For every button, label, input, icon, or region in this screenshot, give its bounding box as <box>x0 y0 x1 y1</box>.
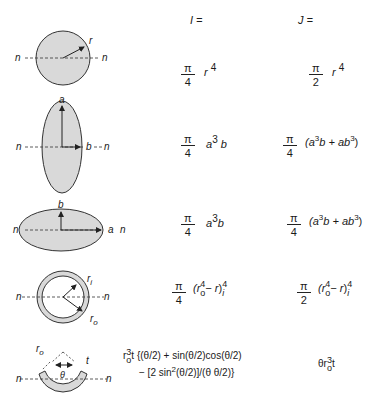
I-row2-expression: a3 b <box>206 134 227 150</box>
label-axis-n-right: n <box>104 291 110 302</box>
I-row4-expression: (r4o− r)4i <box>193 280 227 298</box>
label-r: r <box>89 35 92 46</box>
label-axis-n-left: n <box>16 291 22 302</box>
J-row2-fraction: π4 <box>283 133 297 160</box>
label-axis-n-right: n <box>120 224 126 235</box>
label-axis-n-left: n <box>15 52 21 63</box>
I-row3-expression: a3b <box>206 213 224 229</box>
label-axis-n-left: n <box>13 224 19 235</box>
label-a: a <box>59 94 65 105</box>
shapes-canvas <box>0 0 371 401</box>
J-row2-expression: (a3b + ab3) <box>305 134 358 148</box>
label-theta: θ <box>60 370 65 380</box>
J-row1-fraction: π2 <box>309 62 323 89</box>
label-axis-n-right: n <box>104 141 110 152</box>
I-row5-line2: − [2 sin2(θ/2)]/(θ θ/2)} <box>123 364 242 378</box>
I-row1-expression: r4 <box>204 62 216 78</box>
I-row5-line1: r3ot {(θ/2) + sin(θ/2)cos(θ/2) <box>123 348 242 364</box>
I-row1-fraction: π4 <box>181 62 195 89</box>
I-row2-fraction: π4 <box>181 133 195 160</box>
J-row4-fraction: π2 <box>297 280 311 307</box>
label-ro: ro <box>36 343 44 357</box>
I-row3-fraction: π4 <box>181 212 195 239</box>
label-t: t <box>86 355 89 366</box>
I-row5-expression: r3ot {(θ/2) + sin(θ/2)cos(θ/2) − [2 sin2… <box>123 348 242 378</box>
J-row3-fraction: π4 <box>287 212 301 239</box>
I-row4-fraction: π4 <box>172 280 186 307</box>
label-axis-n-right: n <box>102 52 108 63</box>
horizontal-ellipse-shape <box>19 209 103 251</box>
label-axis-n-left: n <box>16 373 22 384</box>
label-axis-n-right: n <box>106 373 112 384</box>
label-axis-n-left: n <box>16 141 22 152</box>
label-a: a <box>108 224 114 235</box>
label-b: b <box>58 199 64 210</box>
J-row4-expression: (r4o− r)4i <box>318 280 352 298</box>
label-b: b <box>86 141 92 152</box>
J-row3-expression: (a3b + ab3) <box>309 213 362 227</box>
label-ri: ri <box>87 273 92 287</box>
J-row1-expression: r4 <box>332 62 344 78</box>
J-row5-expression: θr3ot <box>318 356 335 372</box>
label-ro: ro <box>90 313 98 327</box>
